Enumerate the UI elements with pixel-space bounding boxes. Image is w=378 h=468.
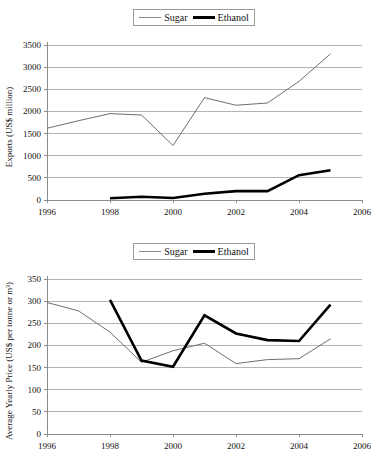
exports-chart-y-tick-label: 1500: [23, 129, 42, 139]
exports-chart-x-tick-label: 2002: [227, 207, 245, 217]
price-chart-y-tick-label: 150: [28, 363, 42, 373]
exports-chart-y-tick-label: 3500: [23, 40, 42, 50]
price-chart-y-tick-label: 300: [28, 296, 42, 306]
price-chart-y-tick-label: 250: [28, 318, 42, 328]
price-chart-x-tick-label: 2002: [227, 441, 245, 451]
price-chart: Sugar Ethanol Average Yearly Price (US$ …: [0, 234, 378, 468]
price-chart-y-tick-label: 200: [28, 340, 42, 350]
price-chart-series-sugar: [47, 302, 331, 363]
exports-chart-y-tick-label: 3000: [23, 62, 42, 72]
exports-chart-x-tick-label: 1996: [38, 207, 57, 217]
exports-chart-plot: 0500100015002000250030003500199619982000…: [0, 0, 378, 234]
exports-chart-series-ethanol: [110, 170, 331, 198]
exports-chart-y-tick-label: 2000: [23, 106, 42, 116]
price-chart-y-tick-label: 350: [28, 274, 42, 284]
price-chart-y-tick-label: 0: [37, 429, 42, 439]
exports-chart-y-tick-label: 2500: [23, 84, 42, 94]
price-chart-x-tick-label: 2000: [164, 441, 183, 451]
exports-chart-y-tick-label: 500: [28, 173, 42, 183]
price-chart-y-tick-label: 50: [32, 407, 42, 417]
price-chart-x-tick-label: 2004: [290, 441, 309, 451]
price-chart-x-tick-label: 1998: [101, 441, 120, 451]
exports-chart-x-tick-label: 1998: [101, 207, 120, 217]
price-chart-y-tick-label: 100: [28, 385, 42, 395]
figure-sheet: Sugar Ethanol Exports (US$ million) 0500…: [0, 0, 378, 468]
exports-chart: Sugar Ethanol Exports (US$ million) 0500…: [0, 0, 378, 234]
price-chart-x-tick-label: 2006: [353, 441, 372, 451]
exports-chart-x-tick-label: 2006: [353, 207, 372, 217]
exports-chart-x-tick-label: 2004: [290, 207, 309, 217]
price-chart-series-ethanol: [110, 300, 331, 367]
price-chart-plot: 0501001502002503003501996199820002002200…: [0, 234, 378, 468]
exports-chart-x-tick-label: 2000: [164, 207, 183, 217]
exports-chart-y-tick-label: 1000: [23, 151, 42, 161]
price-chart-x-tick-label: 1996: [38, 441, 57, 451]
exports-chart-y-tick-label: 0: [37, 195, 42, 205]
